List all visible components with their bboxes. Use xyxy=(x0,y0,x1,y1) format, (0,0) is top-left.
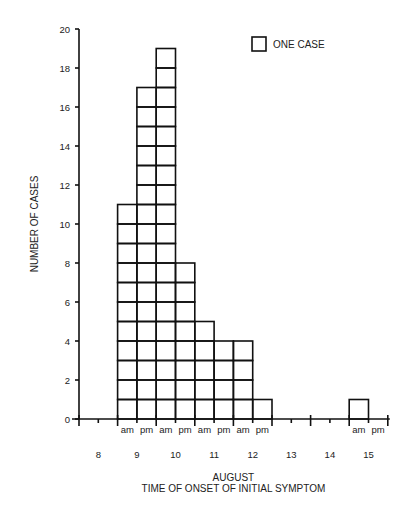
legend-label: ONE CASE xyxy=(273,39,325,50)
half-day-label: pm xyxy=(372,424,385,435)
case-box xyxy=(214,400,233,420)
case-box xyxy=(156,88,175,108)
case-box xyxy=(118,400,137,420)
case-box xyxy=(214,361,233,381)
y-tick-label: 14 xyxy=(59,141,70,152)
case-box xyxy=(214,380,233,400)
case-box xyxy=(137,263,156,283)
case-box xyxy=(156,205,175,225)
half-day-label: pm xyxy=(179,424,192,435)
case-box xyxy=(214,341,233,361)
case-box xyxy=(195,380,214,400)
case-box xyxy=(118,224,137,244)
case-box xyxy=(118,263,137,283)
case-box xyxy=(137,283,156,303)
day-label: 10 xyxy=(170,449,181,460)
y-tick-label: 8 xyxy=(65,258,70,269)
y-tick-label: 0 xyxy=(65,414,70,425)
case-box xyxy=(137,185,156,205)
y-tick-label: 12 xyxy=(59,180,70,191)
case-box xyxy=(137,380,156,400)
day-label: 15 xyxy=(363,449,374,460)
case-box xyxy=(118,205,137,225)
case-box xyxy=(156,166,175,186)
case-box xyxy=(118,380,137,400)
y-tick-label: 16 xyxy=(59,102,70,113)
case-box xyxy=(118,244,137,264)
case-box xyxy=(233,400,252,420)
case-box xyxy=(349,400,368,420)
y-tick-label: 10 xyxy=(59,219,70,230)
case-box xyxy=(137,361,156,381)
case-box xyxy=(156,127,175,147)
case-box xyxy=(137,341,156,361)
case-box xyxy=(118,302,137,322)
day-label: 8 xyxy=(96,449,101,460)
day-label: 14 xyxy=(325,449,336,460)
case-box xyxy=(137,322,156,342)
case-box xyxy=(137,400,156,420)
y-tick-label: 20 xyxy=(59,24,70,35)
case-box xyxy=(233,341,252,361)
case-box xyxy=(118,283,137,303)
case-box xyxy=(176,263,195,283)
day-label: 13 xyxy=(286,449,297,460)
case-box xyxy=(156,361,175,381)
case-box xyxy=(156,302,175,322)
y-tick-label: 4 xyxy=(65,336,70,347)
case-box xyxy=(137,205,156,225)
half-day-label: am xyxy=(198,424,211,435)
case-box xyxy=(118,322,137,342)
case-box xyxy=(156,341,175,361)
case-box xyxy=(137,107,156,127)
case-box xyxy=(156,107,175,127)
case-box xyxy=(176,400,195,420)
half-day-label: am xyxy=(352,424,365,435)
case-box xyxy=(176,322,195,342)
half-day-label: pm xyxy=(140,424,153,435)
case-box xyxy=(137,166,156,186)
case-box xyxy=(176,341,195,361)
case-box xyxy=(156,400,175,420)
case-box xyxy=(137,224,156,244)
day-label: 9 xyxy=(134,449,139,460)
case-box xyxy=(233,361,252,381)
case-box xyxy=(118,361,137,381)
half-day-label: pm xyxy=(217,424,230,435)
case-box xyxy=(156,322,175,342)
case-box xyxy=(156,146,175,166)
legend-box-icon xyxy=(252,37,266,51)
case-box xyxy=(137,127,156,147)
case-box xyxy=(137,302,156,322)
x-axis-label: TIME OF ONSET OF INITIAL SYMPTOM xyxy=(142,483,326,494)
case-box xyxy=(195,361,214,381)
case-box xyxy=(176,380,195,400)
case-box xyxy=(118,341,137,361)
half-day-label: am xyxy=(121,424,134,435)
half-day-label: am xyxy=(159,424,172,435)
case-box xyxy=(156,185,175,205)
case-box xyxy=(156,224,175,244)
case-box xyxy=(156,380,175,400)
case-box xyxy=(233,380,252,400)
case-box xyxy=(176,302,195,322)
case-box xyxy=(176,283,195,303)
case-box xyxy=(195,341,214,361)
case-box xyxy=(156,244,175,264)
y-axis-label: NUMBER OF CASES xyxy=(29,175,40,272)
case-box xyxy=(137,88,156,108)
y-tick-label: 2 xyxy=(65,375,70,386)
case-box xyxy=(176,361,195,381)
half-day-label: am xyxy=(236,424,249,435)
case-box xyxy=(195,322,214,342)
case-box xyxy=(137,244,156,264)
case-box xyxy=(195,400,214,420)
y-tick-label: 18 xyxy=(59,63,70,74)
case-box xyxy=(137,146,156,166)
case-box xyxy=(156,263,175,283)
case-box xyxy=(156,49,175,69)
case-box xyxy=(156,68,175,88)
y-tick-label: 6 xyxy=(65,297,70,308)
epidemic-curve-chart: 02468101214161820NUMBER OF CASESampmampm… xyxy=(0,0,408,506)
day-label: 12 xyxy=(247,449,258,460)
